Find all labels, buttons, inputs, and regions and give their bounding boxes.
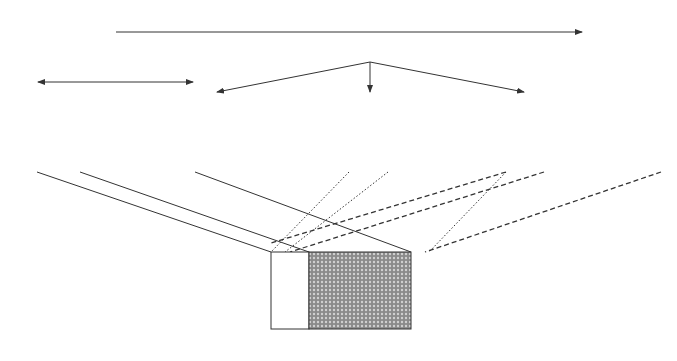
mapping-lines-solid (37, 172, 411, 252)
instruction-cache (271, 252, 411, 329)
diagram-canvas (0, 0, 677, 361)
cfa-region (271, 252, 309, 329)
mapping-lines-dashed (271, 172, 661, 252)
no-code-pointers (217, 62, 524, 92)
cached-traces-region (309, 252, 411, 329)
mapping-lines-dotted (271, 172, 506, 252)
